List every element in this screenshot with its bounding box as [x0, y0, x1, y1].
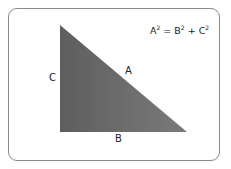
label-base-b: B	[115, 134, 122, 144]
label-height-c: C	[49, 73, 56, 83]
label-hypotenuse-a: A	[125, 66, 132, 76]
pythagorean-formula: A2 = B2 + C2	[150, 24, 209, 36]
formula-equals: =	[160, 25, 174, 36]
formula-plus: +	[185, 25, 199, 36]
formula-c-exponent: 2	[205, 24, 209, 31]
triangle-shape	[60, 25, 187, 132]
